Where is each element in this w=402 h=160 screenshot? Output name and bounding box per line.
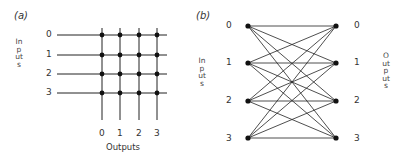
panel-b-output-2: 2 [354,96,360,105]
panel-a-input-3: 3 [46,88,52,97]
panel-a-output-3: 3 [154,129,160,138]
panel-b-output-1: 1 [354,58,360,67]
panel-a-label: (a) [14,10,28,21]
panel-b-output-0: 0 [354,21,360,30]
panel-b-inputs-title: Inputs [198,57,206,87]
bipartite-links [248,26,336,138]
panel-a-inputs-title: Inputs [15,38,23,68]
panel-a-output-1: 1 [117,129,123,138]
panel-b-input-0: 0 [226,21,232,30]
panel-b-input-3: 3 [226,134,232,143]
crossbar-lines [57,28,167,120]
panel-a-outputs-title: Outputs [106,143,140,152]
panel-a-input-1: 1 [46,50,52,59]
panel-a-output-0: 0 [99,129,105,138]
panel-a-input-2: 2 [46,69,52,78]
panel-b-outputs-title: Outputs [382,52,390,90]
panel-b-input-2: 2 [226,96,232,105]
panel-b-label: (b) [196,10,210,21]
panel-b-input-1: 1 [226,58,232,67]
panel-b-output-3: 3 [354,134,360,143]
crosspoint-dots [100,33,160,96]
panel-a-output-2: 2 [136,129,142,138]
panel-a-input-0: 0 [46,30,52,39]
